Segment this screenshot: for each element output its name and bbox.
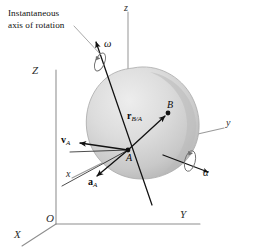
callout-text-line1: Instantaneous bbox=[8, 8, 59, 18]
label-fixed-origin-O: O bbox=[46, 212, 54, 224]
label-a-sub: A bbox=[93, 181, 97, 189]
callout-text-line2: axis of rotation bbox=[8, 20, 64, 30]
physics-diagram-figure: Instantaneous axis of rotation ω α Z Y X… bbox=[0, 0, 256, 252]
point-b-marker bbox=[166, 111, 171, 116]
label-fixed-axis-X: X bbox=[14, 228, 21, 240]
label-point-a: A bbox=[126, 152, 132, 163]
label-point-b: B bbox=[167, 99, 173, 110]
label-vector-v-a: vA bbox=[61, 134, 70, 147]
label-fixed-axis-Y: Y bbox=[180, 208, 186, 220]
label-v-sub: A bbox=[66, 139, 70, 147]
callout-leader-line bbox=[74, 26, 101, 55]
label-moving-axis-y: y bbox=[226, 117, 230, 128]
fixed-axis-X-line bbox=[22, 224, 56, 246]
label-fixed-axis-Z: Z bbox=[32, 64, 38, 76]
label-vector-r-b-over-a: rB/A bbox=[127, 110, 142, 123]
label-moving-axis-x: x bbox=[66, 168, 70, 179]
label-alpha: α bbox=[203, 167, 209, 179]
label-omega: ω bbox=[104, 38, 111, 50]
label-r-sub: B/A bbox=[131, 115, 142, 123]
label-vector-a-a: aA bbox=[88, 176, 97, 189]
diagram-canvas bbox=[0, 0, 256, 252]
label-moving-axis-z: z bbox=[124, 2, 128, 13]
